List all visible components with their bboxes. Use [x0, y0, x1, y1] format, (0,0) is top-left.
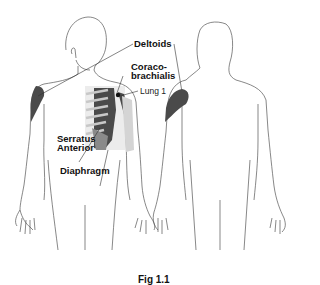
- lung-point: [116, 93, 120, 97]
- deltoid-front: [31, 86, 44, 122]
- label-serratus-line2: Anterior: [57, 143, 94, 152]
- label-diaphragm: Diaphragm: [60, 166, 110, 175]
- deltoid-back: [165, 89, 189, 122]
- label-deltoids: Deltoids: [134, 39, 171, 48]
- label-lung: Lung 1: [140, 86, 166, 96]
- back-body-outline: [153, 22, 285, 250]
- figure-caption: Fig 1.1: [138, 274, 170, 285]
- label-coracobrachialis-line2: brachialis: [131, 71, 175, 80]
